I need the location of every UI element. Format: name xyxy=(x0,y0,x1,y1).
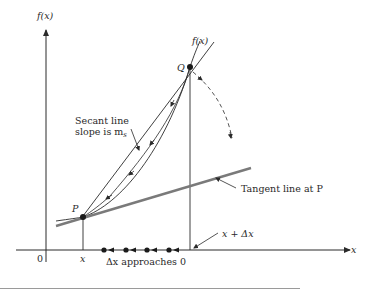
y-axis-label: f(x) xyxy=(37,10,53,21)
x-axis-label: x xyxy=(351,244,356,255)
diagram-canvas: f(x) x 0 f(x) P Q x x + Δx Secant line s… xyxy=(0,0,366,291)
x-plus-dx-label: x + Δx xyxy=(222,228,254,239)
bottom-separator xyxy=(0,288,300,289)
dx-approaches-label: Δx approaches 0 xyxy=(106,256,186,267)
point-q xyxy=(187,64,193,70)
x-tick-label: x xyxy=(80,253,85,264)
tangent-label: Tangent line at P xyxy=(241,183,323,194)
origin-label: 0 xyxy=(37,253,43,264)
curve-label: f(x) xyxy=(192,35,208,46)
point-q-label: Q xyxy=(177,62,185,73)
tangent-pointer xyxy=(216,178,236,188)
rotation-arc xyxy=(193,72,232,138)
secant-label-line2: slope is ms xyxy=(75,126,127,141)
diagram-svg xyxy=(0,0,366,291)
point-p xyxy=(80,214,86,220)
secant-label-line1: Secant line xyxy=(75,115,129,126)
point-p-label: P xyxy=(72,203,78,214)
xdx-pointer xyxy=(194,233,218,248)
